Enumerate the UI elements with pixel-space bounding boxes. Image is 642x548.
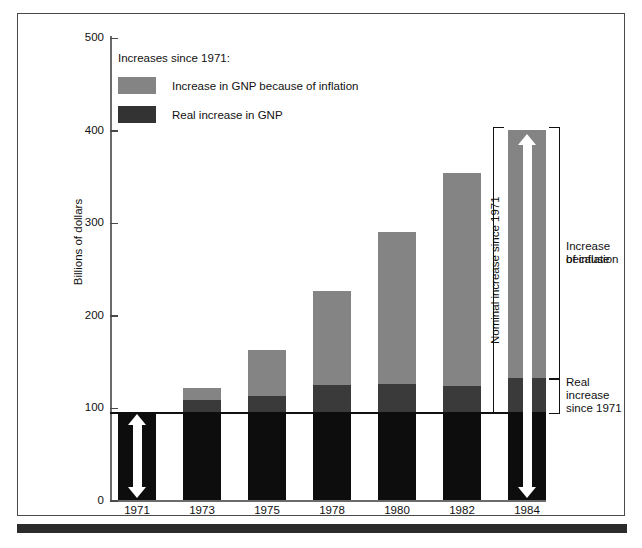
legend: Increases since 1971: Increase in GNP be…: [118, 52, 418, 135]
plot-area: 500 400 300 200 100 0 Billions of dollar…: [0, 0, 642, 548]
arrow-head-down-1971: [128, 487, 146, 498]
arrow-shaft-1984: [523, 144, 532, 488]
x-tick-label-1978: 1978: [302, 504, 362, 516]
bar-1984: [508, 130, 546, 500]
annotation-real-line3: since 1971: [566, 402, 622, 415]
bar-1980-real: [378, 384, 416, 412]
y-tick-label-0: 0: [64, 494, 104, 506]
bar-1971: [118, 412, 156, 500]
y-axis-title: Billions of dollars: [72, 182, 84, 302]
y-tick-400: [110, 130, 118, 132]
chart-page: 500 400 300 200 100 0 Billions of dollar…: [0, 0, 642, 548]
legend-item-real: Real increase in GNP: [118, 106, 418, 123]
bar-1975-base: [248, 412, 286, 500]
arrow-shaft-1971: [133, 423, 142, 489]
legend-label-inflation: Increase in GNP because of inflation: [172, 80, 358, 92]
x-tick-label-1971: 1971: [107, 504, 167, 516]
bar-1982-inflation: [443, 173, 481, 386]
bar-1982-real: [443, 386, 481, 412]
y-axis-line: [110, 36, 112, 502]
bar-1978-real: [313, 385, 351, 412]
y-tick-label-500: 500: [64, 31, 104, 43]
y-tick-500: [110, 38, 118, 40]
x-axis-line: [110, 500, 546, 502]
y-tick-300: [110, 223, 118, 225]
x-tick-label-1980: 1980: [367, 504, 427, 516]
bar-1980-inflation: [378, 232, 416, 384]
legend-title: Increases since 1971:: [118, 52, 418, 64]
y-tick-0: [110, 500, 118, 502]
y-tick-label-400: 400: [64, 124, 104, 136]
annotation-real-line2: increase: [566, 389, 609, 402]
legend-swatch-real: [118, 106, 156, 123]
bar-1980: [378, 232, 416, 500]
y-tick-label-300: 300: [64, 216, 104, 228]
arrow-head-up-1984: [518, 134, 536, 145]
x-tick-label-1984: 1984: [497, 504, 557, 516]
bar-1982: [443, 173, 481, 500]
y-tick-200: [110, 315, 118, 317]
legend-label-real: Real increase in GNP: [172, 109, 283, 121]
bar-1973-inflation: [183, 388, 221, 400]
bar-1978: [313, 291, 351, 500]
legend-item-inflation: Increase in GNP because of inflation: [118, 77, 418, 94]
y-tick-100: [110, 408, 118, 410]
bar-1975-real: [248, 396, 286, 412]
bar-1978-base: [313, 412, 351, 500]
arrow-head-up-1971: [128, 414, 146, 425]
bar-1982-base: [443, 412, 481, 500]
y-tick-label-100: 100: [64, 401, 104, 413]
x-tick-label-1982: 1982: [432, 504, 492, 516]
legend-swatch-inflation: [118, 77, 156, 94]
bar-1973-real: [183, 400, 221, 412]
annotation-real-line1: Real: [566, 376, 590, 389]
y-tick-label-200: 200: [64, 309, 104, 321]
bar-1973: [183, 388, 221, 500]
bar-1973-base: [183, 412, 221, 500]
arrow-head-down-1984: [518, 487, 536, 498]
x-tick-label-1973: 1973: [172, 504, 232, 516]
bar-1975-inflation: [248, 350, 286, 396]
x-tick-label-1975: 1975: [237, 504, 297, 516]
bar-1978-inflation: [313, 291, 351, 385]
bracket-real: [549, 378, 560, 414]
annotation-nominal-increase: Nominal increase since 1971: [489, 196, 501, 344]
annotation-inflation-line2: of inflation: [566, 253, 618, 266]
bar-1980-base: [378, 412, 416, 500]
bar-1975: [248, 350, 286, 500]
bracket-inflation: [549, 127, 560, 380]
